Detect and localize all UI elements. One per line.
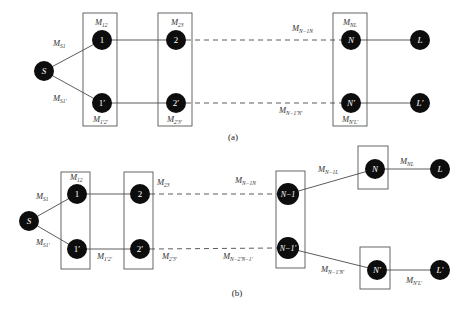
svg-text:1′: 1′ (74, 244, 81, 254)
svg-text:N−1′: N−1′ (279, 244, 297, 253)
label-MN1N: MN−1N (234, 175, 256, 186)
node-N-minus-1-prime: N−1′ (277, 237, 299, 259)
svg-text:2: 2 (138, 189, 143, 199)
label-MS1: MS1 (35, 191, 49, 202)
svg-text:N: N (371, 164, 379, 174)
label-MS1: MS1 (52, 38, 66, 49)
caption-b: (b) (232, 288, 243, 298)
svg-text:2′: 2′ (173, 98, 180, 108)
label-M1p2p: M1′2′ (92, 114, 109, 125)
svg-text:1: 1 (75, 189, 80, 199)
coupling-topology-diagram: S 1 1′ 2 2′ N N′ L L′ MS1 MS1′ M12 M1′2′… (0, 0, 462, 309)
figure-b: S 1 1′ 2 2′ N−1 N−1′ N N′ L L′ MS1 MS1′ … (19, 146, 450, 298)
label-MS1p: MS1′ (35, 237, 51, 248)
label-MNL: MNL (399, 156, 414, 167)
node-1: 1 (67, 184, 87, 204)
label-MN1pNp: MN−1′N′ (278, 105, 303, 116)
figure-a: S 1 1′ 2 2′ N N′ L L′ MS1 MS1′ M12 M1′2′… (34, 13, 430, 142)
node-2-prime: 2′ (166, 93, 186, 113)
label-MNpLp: MN′L′ (405, 275, 423, 286)
svg-text:N′: N′ (372, 265, 382, 275)
node-S: S (34, 61, 54, 81)
node-N-prime: N′ (341, 93, 361, 113)
label-M12: M12 (94, 17, 108, 28)
svg-text:2′: 2′ (137, 244, 144, 254)
label-MN1pNp: MN−1′N′ (320, 264, 345, 275)
node-L-prime: L′ (410, 93, 430, 113)
node-1-prime: 1′ (67, 239, 87, 259)
node-N: N (341, 30, 361, 50)
label-M23: M23 (170, 17, 184, 28)
node-2: 2 (166, 30, 186, 50)
node-S: S (19, 211, 39, 231)
svg-text:N−1: N−1 (280, 190, 296, 199)
node-N-minus-1: N−1 (277, 183, 299, 205)
node-2: 2 (130, 184, 150, 204)
svg-text:S: S (27, 216, 32, 226)
svg-text:N: N (347, 35, 355, 45)
svg-text:L′: L′ (416, 98, 425, 108)
svg-text:L′: L′ (436, 265, 445, 275)
svg-text:L: L (436, 164, 442, 174)
svg-text:L: L (416, 35, 422, 45)
label-MN2pN1p: MN−2′N−1′ (222, 251, 254, 262)
label-M2p3p: M2′3′ (166, 114, 183, 125)
svg-text:1′: 1′ (99, 98, 106, 108)
label-MN1N: MN−1N (291, 23, 313, 34)
node-1-prime: 1′ (92, 93, 112, 113)
svg-text:S: S (42, 66, 47, 76)
node-2-prime: 2′ (130, 239, 150, 259)
node-N-prime: N′ (367, 260, 387, 280)
dashed-edge-2p-Nm1p (150, 248, 278, 249)
label-M12: M12 (69, 172, 83, 183)
label-M23: M23 (156, 177, 170, 188)
node-N: N (365, 159, 385, 179)
node-1: 1 (92, 30, 112, 50)
caption-a: (a) (228, 132, 238, 142)
label-M2p3p: M2′3′ (161, 251, 178, 262)
label-M1p2p: M1′2′ (96, 251, 113, 262)
label-MNL: MNL (342, 17, 357, 28)
label-MNpLp: MN′L′ (341, 114, 359, 125)
svg-text:1: 1 (100, 35, 105, 45)
label-MS1p: MS1′ (52, 93, 68, 104)
svg-text:N′: N′ (346, 98, 356, 108)
edge-Nm1p-Np (288, 248, 377, 270)
label-MN1L: MN−1L (317, 164, 338, 175)
node-L: L (430, 159, 450, 179)
svg-text:2: 2 (174, 35, 179, 45)
node-L: L (410, 30, 430, 50)
node-L-prime: L′ (430, 260, 450, 280)
